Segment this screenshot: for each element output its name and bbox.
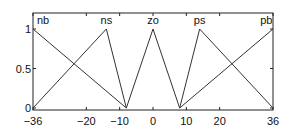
label-ns: ns	[101, 14, 113, 26]
x-tick-label: −20	[77, 115, 96, 127]
x-tick-label: −36	[24, 115, 43, 127]
label-pb: pb	[260, 14, 272, 26]
curve-nb	[33, 29, 126, 108]
membership-curves	[33, 29, 273, 108]
label-zo: zo	[147, 14, 159, 26]
x-tick-label: 20	[214, 115, 226, 127]
y-tick-label: 0.5	[16, 63, 31, 75]
plot-axes: −36−20−10010203600.51	[16, 13, 279, 127]
x-tick-label: −10	[110, 115, 129, 127]
curve-pb	[180, 29, 273, 108]
curve-labels: nbnszopspb	[37, 14, 273, 26]
label-nb: nb	[37, 14, 49, 26]
curve-zo	[126, 29, 179, 108]
membership-function-chart: −36−20−10010203600.51 nbnszopspb	[0, 0, 288, 132]
x-tick-label: 36	[267, 115, 279, 127]
x-tick-label: 0	[150, 115, 156, 127]
y-tick-label: 0	[25, 102, 31, 114]
x-tick-label: 10	[180, 115, 192, 127]
label-ps: ps	[194, 14, 206, 26]
y-tick-label: 1	[25, 23, 31, 35]
